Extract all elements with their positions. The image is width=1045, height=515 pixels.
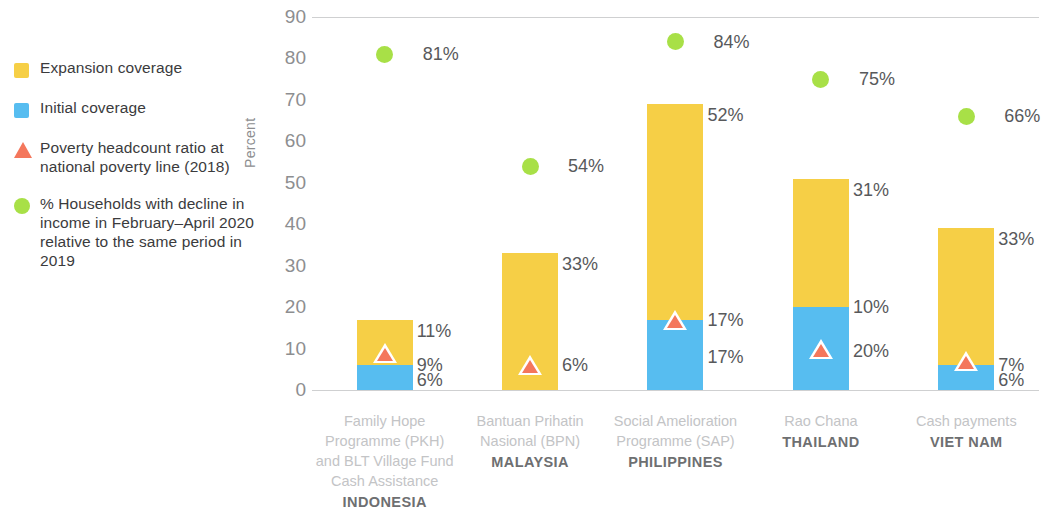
- y-axis-tick-label: 60: [264, 130, 306, 152]
- initial-coverage-value-label: 17%: [707, 346, 743, 367]
- poverty-headcount-marker: [373, 343, 397, 363]
- y-axis-tick-label: 90: [264, 6, 306, 28]
- bar-segment-initial-coverage[interactable]: [357, 365, 413, 390]
- initial-coverage-value-label: 6%: [998, 369, 1024, 390]
- legend-label-expansion-coverage: Expansion coverage: [40, 58, 182, 77]
- legend-item-income-decline: % Households with decline in income in F…: [14, 194, 264, 270]
- y-axis-tick-label: 20: [264, 296, 306, 318]
- programme-name-line: Cash payments: [871, 411, 1045, 431]
- income-decline-value-label: 54%: [568, 156, 604, 177]
- blue-square-icon: [14, 100, 40, 120]
- legend-label-income-decline: % Households with decline in income in F…: [40, 194, 264, 270]
- expansion-coverage-value-label: 33%: [562, 254, 598, 275]
- income-decline-value-label: 75%: [859, 69, 895, 90]
- bar-segment-expansion-coverage[interactable]: [793, 179, 849, 307]
- bar-group[interactable]: 66%33%7%6%Cash paymentsVIET NAM: [894, 0, 1039, 515]
- poverty-headcount-value-label: 17%: [707, 309, 743, 330]
- income-decline-value-label: 66%: [1004, 106, 1040, 127]
- poverty-headcount-value-label: 10%: [853, 297, 889, 318]
- poverty-headcount-marker: [809, 339, 833, 359]
- stacked-bar[interactable]: [647, 104, 703, 390]
- y-axis-tick-label: 70: [264, 89, 306, 111]
- initial-coverage-value-label: 6%: [417, 369, 443, 390]
- poverty-headcount-marker: [954, 351, 978, 371]
- chart-plot-area: Percent 0102030405060708090 81%11%9%6%Fa…: [258, 0, 1039, 515]
- gridline: [312, 17, 1039, 18]
- y-axis-tick-label: 30: [264, 255, 306, 277]
- country-name: VIET NAM: [871, 432, 1045, 452]
- poverty-headcount-marker-fill: [522, 360, 538, 373]
- country-name: PHILIPPINES: [580, 452, 770, 472]
- poverty-headcount-marker-fill: [377, 348, 393, 361]
- poverty-headcount-marker-fill: [958, 356, 974, 369]
- income-decline-marker: [667, 33, 684, 50]
- legend-label-poverty-headcount: Poverty headcount ratio at national pove…: [40, 138, 264, 176]
- legend-item-poverty-headcount: Poverty headcount ratio at national pove…: [14, 138, 264, 176]
- orange-triangle-icon: [14, 140, 40, 160]
- programme-name-line: Cash Assistance: [290, 471, 480, 491]
- expansion-coverage-value-label: 11%: [417, 320, 452, 341]
- bars-container: 81%11%9%6%Family HopeProgramme (PKH)and …: [312, 0, 1039, 515]
- poverty-headcount-marker: [518, 355, 542, 375]
- chart-legend: Expansion coverage Initial coverage Pove…: [14, 58, 264, 288]
- expansion-coverage-value-label: 33%: [998, 229, 1034, 250]
- y-axis-tick-label: 0: [264, 379, 306, 401]
- income-decline-value-label: 84%: [713, 31, 749, 52]
- bar-segment-expansion-coverage[interactable]: [938, 228, 994, 365]
- income-decline-marker: [958, 108, 975, 125]
- income-decline-marker: [522, 158, 539, 175]
- legend-item-expansion-coverage: Expansion coverage: [14, 58, 264, 80]
- y-axis-title: Percent: [242, 118, 258, 168]
- poverty-headcount-marker-fill: [813, 344, 829, 357]
- y-axis-tick-label: 50: [264, 172, 306, 194]
- gridline: [312, 390, 1039, 391]
- expansion-coverage-value-label: 52%: [707, 105, 743, 126]
- bar-segment-expansion-coverage[interactable]: [647, 104, 703, 320]
- y-axis-tick-label: 40: [264, 213, 306, 235]
- yellow-square-icon: [14, 60, 40, 80]
- poverty-headcount-value-label: 6%: [562, 355, 588, 376]
- income-decline-value-label: 81%: [423, 44, 459, 65]
- expansion-coverage-value-label: 31%: [853, 179, 889, 200]
- initial-coverage-value-label: 20%: [853, 340, 889, 361]
- income-decline-marker: [376, 46, 393, 63]
- x-axis-category-label: Cash paymentsVIET NAM: [871, 411, 1045, 452]
- poverty-headcount-marker: [663, 310, 687, 330]
- y-axis-tick-label: 80: [264, 47, 306, 69]
- bar-segment-initial-coverage[interactable]: [647, 320, 703, 390]
- legend-item-initial-coverage: Initial coverage: [14, 98, 264, 120]
- country-name: INDONESIA: [290, 492, 480, 512]
- y-axis-tick-label: 10: [264, 338, 306, 360]
- poverty-headcount-marker-fill: [667, 315, 683, 328]
- green-circle-icon: [14, 196, 40, 216]
- legend-label-initial-coverage: Initial coverage: [40, 98, 146, 117]
- income-decline-marker: [812, 71, 829, 88]
